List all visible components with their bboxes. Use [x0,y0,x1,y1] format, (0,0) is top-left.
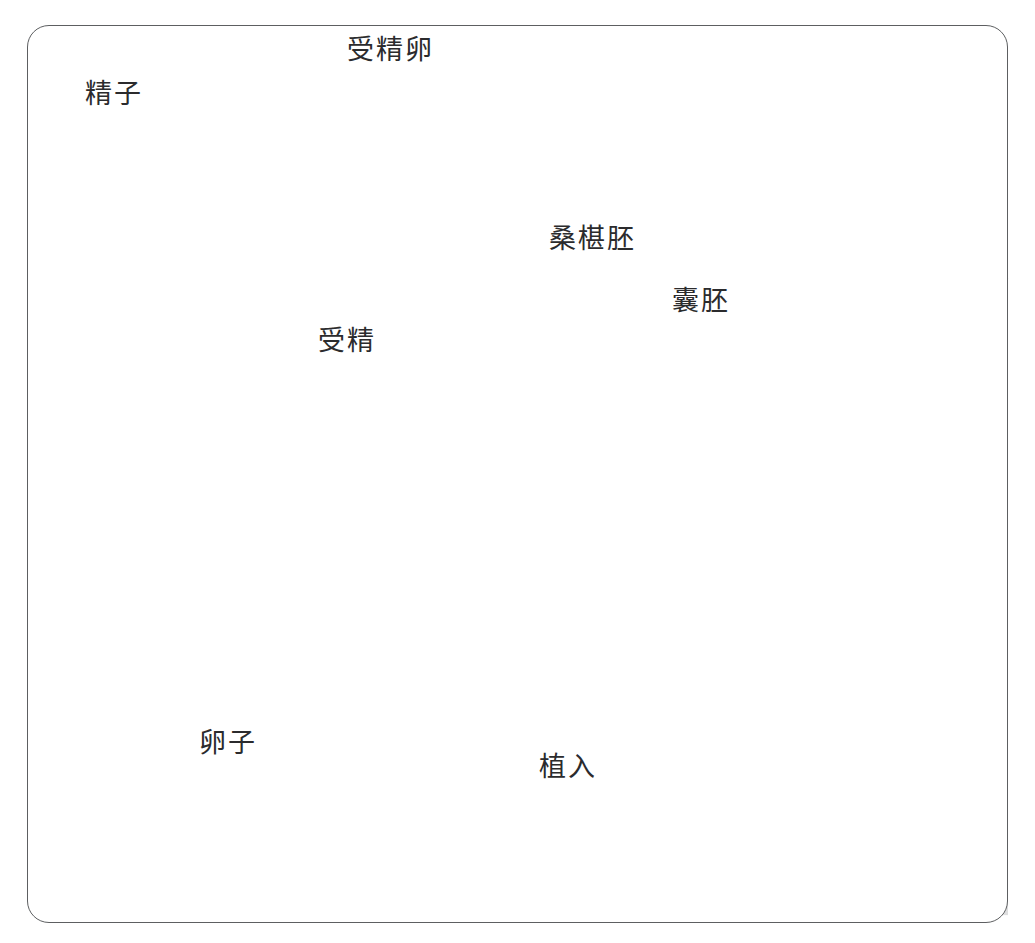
label-blastocyst: 囊胚 [672,287,730,314]
figure-root: 精子 受精卵 受精 桑椹胚 囊胚 卵子 植入 [0,0,1035,943]
label-fertilization: 受精 [318,327,376,354]
label-ovum: 卵子 [199,729,257,756]
label-sperm: 精子 [85,80,143,107]
label-morula: 桑椹胚 [549,225,636,252]
label-implantation: 植入 [539,753,597,780]
figure-frame [27,25,1008,923]
label-zygote: 受精卵 [347,36,434,63]
